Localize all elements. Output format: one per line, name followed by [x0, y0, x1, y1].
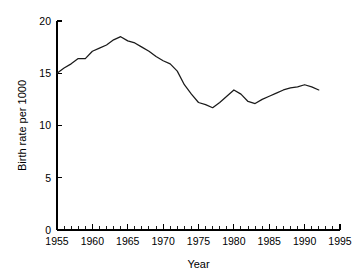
x-tick-label: 1970 — [151, 235, 175, 247]
data-line-1 — [57, 37, 319, 108]
x-tick-label: 1985 — [258, 235, 282, 247]
x-tick-label: 1955 — [45, 235, 69, 247]
x-axis-title: Year — [187, 258, 210, 270]
y-tick-label: 15 — [39, 67, 51, 79]
x-tick-label: 1995 — [328, 235, 352, 247]
x-tick-label: 1980 — [222, 235, 246, 247]
x-tick-label: 1975 — [187, 235, 211, 247]
y-tick-label: 10 — [39, 119, 51, 131]
y-tick-label: 0 — [45, 224, 51, 236]
x-tick-label: 1965 — [116, 235, 140, 247]
x-axis: 195519601965197019751980198519901995 — [45, 224, 352, 248]
y-axis-title: Birth rate per 1000 — [16, 80, 28, 171]
line-chart-birth-rate: 05101520 1955196019651970197519801985199… — [0, 0, 360, 274]
x-tick-label: 1990 — [293, 235, 317, 247]
y-tick-label: 20 — [39, 15, 51, 27]
x-tick-label: 1960 — [81, 235, 105, 247]
y-tick-label: 5 — [45, 172, 51, 184]
y-axis: 05101520 — [39, 15, 62, 236]
data-series-group — [57, 37, 319, 108]
chart-canvas: 05101520 1955196019651970197519801985199… — [0, 0, 360, 274]
